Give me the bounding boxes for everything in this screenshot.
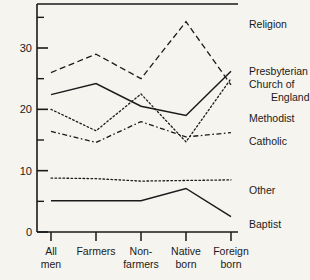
y-axis-tick-labels: 0102030 xyxy=(20,42,32,238)
chart-legend: ReligionPresbyterianChurch ofEnglandMeth… xyxy=(249,18,310,230)
x-axis-tick-labels: AllmenFarmersNon-farmersNativebornForeig… xyxy=(41,245,249,270)
x-tick-label: born xyxy=(175,258,196,270)
x-tick-label: Foreign xyxy=(213,245,249,257)
legend-label-0: England xyxy=(271,91,310,103)
x-tick-label: farmers xyxy=(123,258,159,270)
x-tick-label: All xyxy=(45,245,57,257)
x-tick-label: Farmers xyxy=(76,245,115,257)
series-line-0 xyxy=(51,22,231,85)
y-axis-ticks xyxy=(37,17,48,232)
y-tick-label: 20 xyxy=(20,103,32,115)
y-tick-label: 0 xyxy=(26,226,32,238)
y-tick-label: 10 xyxy=(20,165,32,177)
legend-title: Religion xyxy=(249,18,287,30)
y-tick-label: 30 xyxy=(20,42,32,54)
x-tick-label: Native xyxy=(171,245,201,257)
legend-label-2: Catholic xyxy=(249,135,287,147)
series-line-3 xyxy=(51,178,231,181)
legend-label-1: Methodist xyxy=(249,112,295,124)
chart-container: 0102030 AllmenFarmersNon-farmersNativebo… xyxy=(0,0,310,280)
legend-label-0: Church of xyxy=(249,78,295,90)
x-tick-label: Non- xyxy=(130,245,153,257)
plot-frame xyxy=(37,4,238,232)
series-line-4 xyxy=(51,188,231,216)
series-lines xyxy=(51,22,231,217)
line-chart: 0102030 AllmenFarmersNon-farmersNativebo… xyxy=(0,0,310,280)
x-tick-label: men xyxy=(41,258,62,270)
x-axis-ticks xyxy=(51,232,231,241)
legend-label-0: Presbyterian xyxy=(249,65,308,77)
legend-label-3: Other xyxy=(249,184,276,196)
legend-label-4: Baptist xyxy=(249,218,281,230)
x-tick-label: born xyxy=(220,258,241,270)
series-line-2 xyxy=(51,122,231,143)
